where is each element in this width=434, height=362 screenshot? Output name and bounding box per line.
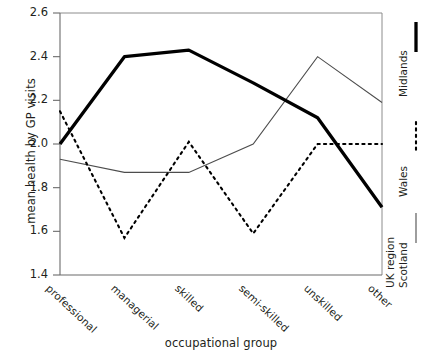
plot-frame (60, 13, 382, 275)
y-tick-label: 2.6 (14, 7, 48, 19)
chart-container: mean health by GP visits occupational gr… (0, 0, 434, 362)
y-tick-label: 1.4 (14, 269, 48, 281)
y-tick-label: 1.6 (14, 225, 48, 237)
legend-title: UK region (384, 237, 396, 288)
y-axis-ticks (53, 13, 60, 275)
x-axis-title: occupational group (60, 336, 382, 350)
series-line-scotland (60, 57, 382, 173)
series-line-midlands (60, 50, 382, 207)
legend-label-midlands[interactable]: Midlands (397, 50, 409, 97)
y-tick-label: 1.8 (14, 182, 48, 194)
y-axis-title: mean health by GP visits (24, 56, 38, 246)
series-line-wales (60, 111, 382, 238)
y-tick-label: 2.2 (14, 94, 48, 106)
y-tick-label: 2.4 (14, 51, 48, 63)
y-tick-label: 2.0 (14, 138, 48, 150)
legend-label-scotland[interactable]: Scotland (397, 242, 409, 288)
legend-label-wales[interactable]: Wales (397, 166, 409, 197)
